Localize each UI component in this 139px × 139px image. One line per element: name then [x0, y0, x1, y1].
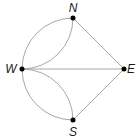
- node-s: [71, 118, 76, 123]
- label-n: N: [69, 1, 78, 15]
- graph-diagram: N W E S: [0, 0, 139, 139]
- edge-n-w-inner: [22, 18, 73, 69]
- edge-n-w-outer: [22, 18, 73, 69]
- node-n: [71, 16, 76, 21]
- label-e: E: [127, 62, 136, 76]
- node-w: [20, 67, 25, 72]
- label-s: S: [69, 125, 77, 139]
- edge-s-e: [73, 69, 124, 120]
- node-e: [122, 67, 127, 72]
- edge-w-s-inner: [22, 69, 73, 120]
- edge-n-e: [73, 18, 124, 69]
- edge-w-s-outer: [22, 69, 73, 120]
- label-w: W: [5, 62, 18, 76]
